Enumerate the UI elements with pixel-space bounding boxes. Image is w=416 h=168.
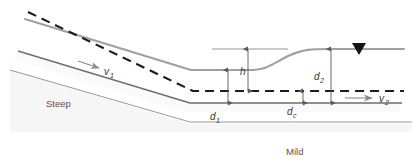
- label-dc-subscript: c: [293, 112, 297, 119]
- label-head-h: h: [240, 66, 246, 77]
- label-steep: Steep: [46, 98, 71, 109]
- label-v2-subscript: 2: [384, 99, 389, 106]
- hydraulic-jump-diagram: Steep Mild v 1 v 2 h d 1 d 2 d c: [0, 0, 416, 168]
- label-v1-subscript: 1: [110, 72, 114, 79]
- label-mild: Mild: [286, 146, 303, 157]
- label-d1-subscript: 1: [216, 117, 220, 124]
- label-depth-2: d 2: [314, 71, 324, 84]
- flow-arrow-icon-upstream: [78, 61, 99, 68]
- label-d2-subscript: 2: [319, 77, 324, 84]
